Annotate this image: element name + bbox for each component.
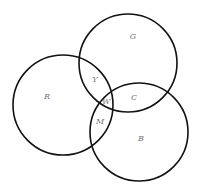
label-r: R	[43, 92, 50, 101]
venn-diagram: G Y R W C M B	[0, 0, 197, 193]
circle-g	[79, 14, 177, 112]
label-c: C	[131, 93, 137, 102]
label-w: W	[102, 97, 111, 106]
label-y: Y	[92, 75, 98, 84]
label-m: M	[95, 117, 105, 126]
label-g: G	[130, 32, 137, 41]
label-b: B	[137, 134, 144, 143]
